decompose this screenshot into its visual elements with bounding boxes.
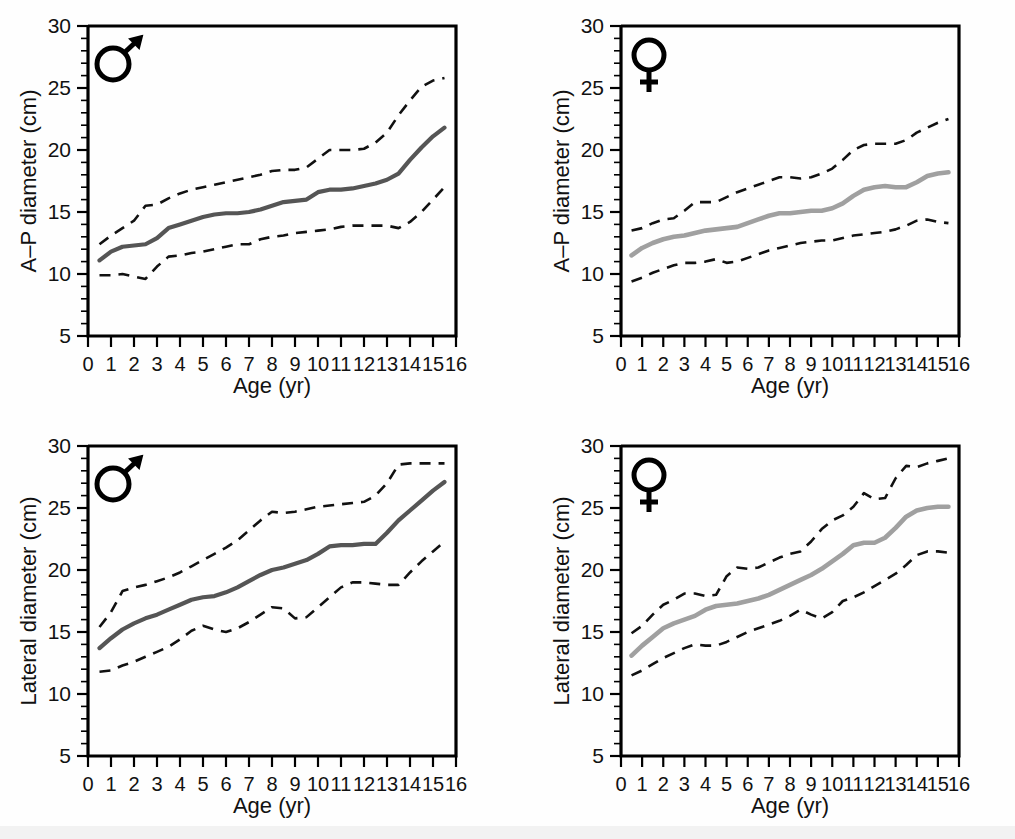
x-tick-label: 13 — [376, 773, 398, 795]
y-tick-labels: 51015202530 — [581, 434, 604, 767]
x-tick-label: 16 — [948, 773, 970, 795]
x-tick-label: 5 — [721, 773, 732, 795]
y-ticks — [77, 446, 88, 756]
y-tick-label: 20 — [48, 558, 71, 581]
x-tick-label: 10 — [307, 773, 329, 795]
x-tick-label: 12 — [353, 353, 375, 375]
x-tick-label: 5 — [197, 353, 208, 375]
male-symbol — [97, 36, 142, 80]
curves — [632, 119, 949, 281]
curve-median — [632, 172, 949, 255]
x-tick-label: 14 — [399, 773, 421, 795]
y-tick-label: 30 — [48, 14, 71, 37]
x-tick-label: 0 — [615, 353, 626, 375]
y-ticks — [77, 26, 88, 336]
plot-frame — [621, 26, 959, 336]
x-axis-title: Age (yr) — [751, 373, 829, 398]
x-tick-label: 11 — [843, 773, 864, 795]
y-tick-label: 30 — [581, 434, 604, 457]
x-tick-label: 0 — [82, 773, 93, 795]
x-tick-labels: 012345678910111213141516 — [82, 353, 467, 375]
curves — [632, 458, 949, 675]
y-tick-label: 15 — [48, 200, 71, 223]
x-tick-label: 2 — [658, 353, 669, 375]
x-tick-label: 6 — [220, 773, 231, 795]
y-tick-label: 20 — [48, 138, 71, 161]
x-tick-label: 7 — [243, 773, 254, 795]
x-tick-label: 5 — [721, 353, 732, 375]
x-ticks — [88, 336, 456, 347]
y-axis-title: A–P diameter (cm) — [549, 90, 574, 273]
y-ticks — [610, 26, 621, 336]
curve-upper-bound — [100, 463, 445, 627]
panel-lateral-female: 51015202530 012345678910111213141516 Lat… — [508, 420, 1015, 839]
x-tick-label: 7 — [243, 353, 254, 375]
x-tick-label: 8 — [784, 773, 795, 795]
x-tick-label: 12 — [353, 773, 375, 795]
x-tick-label: 4 — [700, 773, 711, 795]
x-tick-label: 15 — [422, 353, 444, 375]
y-tick-label: 15 — [48, 620, 71, 643]
x-tick-label: 9 — [289, 773, 300, 795]
x-tick-label: 0 — [615, 773, 626, 795]
x-tick-label: 10 — [821, 773, 843, 795]
curve-median — [100, 128, 445, 261]
x-tick-label: 16 — [445, 773, 467, 795]
x-tick-label: 10 — [821, 353, 843, 375]
curve-lower-bound — [100, 187, 445, 279]
curves — [100, 463, 445, 671]
y-tick-label: 30 — [48, 434, 71, 457]
x-tick-label: 4 — [700, 353, 711, 375]
curve-upper-bound — [100, 78, 445, 244]
x-axis-title: Age (yr) — [751, 793, 829, 818]
y-tick-label: 30 — [581, 14, 604, 37]
x-tick-label: 13 — [885, 773, 907, 795]
x-axis-title: Age (yr) — [233, 373, 311, 398]
y-tick-label: 10 — [581, 682, 604, 705]
male-symbol — [97, 456, 142, 500]
curve-lower-bound — [100, 541, 445, 671]
y-tick-label: 15 — [581, 200, 604, 223]
x-tick-label: 0 — [82, 353, 93, 375]
plot-frame — [88, 26, 456, 336]
x-tick-label: 1 — [105, 773, 116, 795]
footer-band — [0, 826, 1015, 839]
y-tick-labels: 51015202530 — [48, 434, 71, 767]
curve-upper-bound — [632, 458, 949, 633]
x-tick-label: 16 — [948, 353, 970, 375]
x-tick-label: 1 — [105, 353, 116, 375]
y-tick-label: 15 — [581, 620, 604, 643]
panel-lateral-male-svg: 51015202530 012345678910111213141516 Lat… — [0, 420, 507, 839]
plot-frame — [621, 446, 959, 756]
x-tick-label: 4 — [174, 353, 185, 375]
y-tick-label: 5 — [59, 324, 71, 347]
curve-median — [632, 507, 949, 656]
x-tick-label: 2 — [128, 773, 139, 795]
x-tick-label: 11 — [331, 353, 352, 375]
x-tick-label: 12 — [863, 353, 885, 375]
x-tick-label: 6 — [742, 353, 753, 375]
panel-ap-female-svg: 51015202530 012345678910111213141516 A–P… — [508, 0, 1015, 419]
x-tick-label: 3 — [679, 773, 690, 795]
x-tick-label: 14 — [906, 353, 928, 375]
x-tick-labels: 012345678910111213141516 — [615, 773, 970, 795]
x-tick-label: 12 — [863, 773, 885, 795]
curve-lower-bound — [632, 551, 949, 675]
curve-lower-bound — [632, 219, 949, 281]
y-tick-label: 5 — [592, 324, 604, 347]
y-axis-title: Lateral diameter (cm) — [549, 496, 574, 705]
x-tick-label: 8 — [266, 773, 277, 795]
x-axis-title: Age (yr) — [233, 793, 311, 818]
figure-root: 51015202530 012345678910111213141516 A–P… — [0, 0, 1015, 839]
panel-lateral-female-svg: 51015202530 012345678910111213141516 Lat… — [508, 420, 1015, 839]
curves — [100, 78, 445, 279]
x-tick-label: 2 — [658, 773, 669, 795]
x-tick-label: 7 — [763, 773, 774, 795]
x-tick-label: 8 — [784, 353, 795, 375]
y-tick-label: 25 — [581, 496, 604, 519]
x-tick-label: 9 — [806, 773, 817, 795]
x-tick-label: 15 — [927, 353, 949, 375]
y-tick-label: 25 — [581, 76, 604, 99]
y-tick-label: 5 — [59, 744, 71, 767]
y-axis-title: Lateral diameter (cm) — [16, 496, 41, 705]
